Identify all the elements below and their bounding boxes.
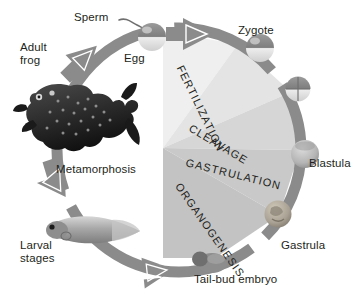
cleavage-embryo (286, 77, 311, 102)
tadpole-larva (46, 216, 140, 243)
label-metamorphosis: Metamorphosis (56, 163, 136, 176)
label-egg: Egg (124, 52, 145, 65)
label-sperm: Sperm (74, 11, 108, 24)
label-blastula: Blastula (309, 157, 351, 170)
zygote-cell (246, 34, 274, 62)
figure-canvas: Adult frog Sperm Egg Zygote Blastula Gas… (0, 0, 359, 298)
gastrula-embryo (265, 201, 292, 228)
adult-frog (13, 83, 140, 151)
label-adult-frog: Adult frog (20, 41, 47, 67)
label-larval-stages: Larval stages (20, 239, 54, 265)
egg-cell (138, 23, 166, 51)
label-zygote: Zygote (238, 24, 274, 37)
label-gastrula: Gastrula (281, 239, 325, 252)
